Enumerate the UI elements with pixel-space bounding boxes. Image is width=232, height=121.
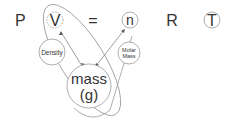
ideal-gas-diagram: P V = n R T Density Molar Mass mass (g) — [0, 0, 232, 121]
pressure-symbol: P — [15, 12, 26, 29]
equals-sign: = — [88, 12, 97, 29]
gas-constant-symbol: R — [166, 12, 178, 29]
moles-symbol: n — [126, 12, 134, 28]
volume-symbol: V — [50, 12, 61, 29]
temperature-symbol: T — [207, 12, 217, 29]
density-label: Density — [41, 49, 63, 57]
arrow-head-icon — [59, 31, 63, 35]
arrow-head-icon — [121, 29, 125, 33]
mass-label-line1: mass — [71, 70, 107, 87]
molar-mass-label-line2: Mass — [122, 53, 135, 59]
mass-label-line2: (g) — [80, 86, 98, 103]
